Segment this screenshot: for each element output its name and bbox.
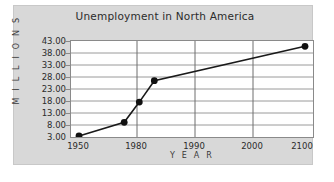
data-point bbox=[136, 99, 143, 106]
y-tick-label: 18.00 bbox=[20, 96, 66, 106]
data-point bbox=[121, 119, 128, 126]
data-point bbox=[151, 77, 158, 84]
data-point bbox=[76, 133, 83, 137]
x-tick-label: 2100 bbox=[277, 141, 327, 151]
data-points bbox=[76, 43, 309, 137]
y-tick-label: 38.00 bbox=[20, 48, 66, 58]
data-point bbox=[302, 43, 309, 50]
y-tick-label: 8.00 bbox=[20, 120, 66, 130]
y-tick-label: 23.00 bbox=[20, 84, 66, 94]
x-tick-label: 1990 bbox=[169, 141, 219, 151]
x-axis-title: Y E A R bbox=[70, 151, 314, 160]
chart-title: Unemployment in North America bbox=[40, 10, 290, 22]
chart-figure: Unemployment in North America M I L L I … bbox=[0, 0, 334, 182]
x-tick-label: 1980 bbox=[111, 141, 161, 151]
horizontal-gridlines bbox=[71, 53, 313, 125]
data-line bbox=[79, 46, 305, 136]
chart-plot-svg bbox=[71, 41, 313, 137]
y-tick-label: 13.00 bbox=[20, 108, 66, 118]
y-tick-label: 33.00 bbox=[20, 60, 66, 70]
y-tick-label: 28.00 bbox=[20, 72, 66, 82]
y-tick-label: 43.00 bbox=[20, 36, 66, 46]
x-tick-label: 2000 bbox=[227, 141, 277, 151]
x-tick-label: 1950 bbox=[53, 141, 103, 151]
plot-area bbox=[70, 40, 314, 138]
